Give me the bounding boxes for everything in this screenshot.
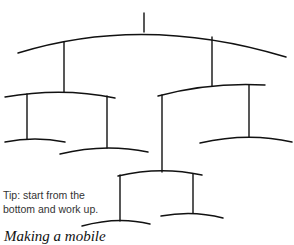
bottom-right-arm	[161, 213, 223, 218]
bottom-left-arm	[82, 220, 150, 226]
tip-text: Tip: start from the bottom and work up.	[3, 188, 98, 216]
top-arm	[18, 34, 286, 57]
left-right-arm	[60, 148, 148, 154]
middle-arm	[118, 171, 202, 176]
tip-line-1: Tip: start from the	[3, 188, 98, 202]
left-arm	[5, 92, 115, 98]
tip-line-2: bottom and work up.	[3, 202, 98, 216]
left-left-arm	[5, 139, 65, 142]
caption: Making a mobile	[4, 228, 106, 245]
right-right-arm	[200, 137, 292, 143]
